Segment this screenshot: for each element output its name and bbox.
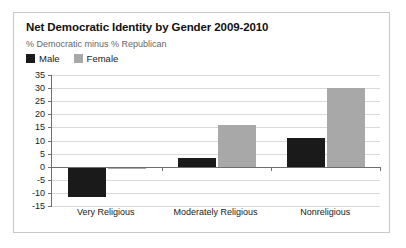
- y-tick-label: 0: [40, 162, 45, 171]
- y-tick-label: -10: [32, 188, 45, 197]
- bar-female-nonreligious: [327, 88, 365, 167]
- chart-title: Net Democratic Identity by Gender 2009-2…: [26, 21, 268, 33]
- y-tick-label: 10: [35, 136, 45, 145]
- bar-male-nonreligious: [287, 138, 325, 167]
- y-tick-label: 15: [35, 123, 45, 132]
- x-category-label: Nonreligious: [300, 208, 350, 217]
- x-category-label: Very Religious: [77, 208, 135, 217]
- plot-wrapper: 35302520151050-5-10-15 Very ReligiousMod…: [26, 75, 380, 223]
- y-tick-label: 5: [40, 149, 45, 158]
- chart-subtitle: % Democratic minus % Republican: [26, 39, 167, 49]
- legend-entry-female: Female: [74, 54, 119, 64]
- legend-entry-male: Male: [26, 54, 60, 64]
- y-tick-label: 30: [35, 84, 45, 93]
- y-tick-label: 25: [35, 97, 45, 106]
- y-tick-label: -5: [37, 175, 45, 184]
- legend-swatch-male: [26, 54, 35, 63]
- x-axis-category-labels: Very ReligiousModerately ReligiousNonrel…: [51, 208, 380, 222]
- y-tick-label: 35: [35, 71, 45, 80]
- bar-male-very-religious: [68, 167, 106, 197]
- x-tickmark: [271, 167, 272, 171]
- legend-label-female: Female: [87, 54, 119, 64]
- chart-legend: MaleFemale: [26, 54, 118, 64]
- x-tickmark: [380, 167, 381, 171]
- x-category-label: Moderately Religious: [173, 208, 257, 217]
- x-tickmark: [162, 167, 163, 171]
- legend-swatch-female: [74, 54, 83, 63]
- y-tick-label: 20: [35, 110, 45, 119]
- zero-axis-line: [52, 167, 380, 168]
- bar-male-moderately-religious: [178, 158, 216, 167]
- plot-area: [51, 75, 380, 206]
- y-tickmark: [48, 206, 52, 207]
- y-axis-tick-labels: 35302520151050-5-10-15: [26, 75, 48, 206]
- chart-card: Net Democratic Identity by Gender 2009-2…: [13, 12, 390, 233]
- bars-layer: [52, 75, 380, 206]
- legend-label-male: Male: [39, 54, 60, 64]
- bar-female-moderately-religious: [218, 125, 256, 167]
- y-tick-label: -15: [32, 202, 45, 211]
